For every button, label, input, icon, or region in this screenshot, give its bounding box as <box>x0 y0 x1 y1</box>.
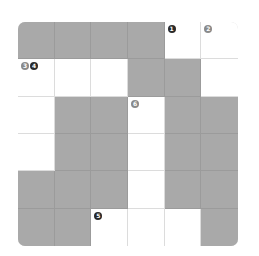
grid-cell-block <box>201 97 238 134</box>
grid-cell-block <box>55 97 92 134</box>
grid-cell-open[interactable]: 34 <box>18 59 55 96</box>
grid-cell-open[interactable] <box>128 171 165 208</box>
grid-cell-block <box>91 134 128 171</box>
grid-cell-open[interactable] <box>128 134 165 171</box>
grid-cell-block <box>18 22 55 59</box>
grid-cell-open[interactable] <box>91 59 128 96</box>
grid-cell-block <box>201 209 238 246</box>
clue-number-badge: 6 <box>131 100 139 108</box>
grid-cell-block <box>55 134 92 171</box>
clue-number-badge: 5 <box>94 212 102 220</box>
grid-cell-open[interactable] <box>201 59 238 96</box>
grid-cell-open[interactable] <box>18 97 55 134</box>
grid-cell-block <box>165 171 202 208</box>
grid-cell-block <box>55 171 92 208</box>
crossword-grid: 123465 <box>18 22 238 246</box>
grid-cell-block <box>165 134 202 171</box>
grid-cell-open[interactable] <box>165 209 202 246</box>
grid-cell-block <box>18 209 55 246</box>
grid-cell-block <box>128 59 165 96</box>
grid-cell-block <box>165 59 202 96</box>
grid-cell-block <box>201 134 238 171</box>
grid-cell-block <box>128 22 165 59</box>
grid-cell-open[interactable]: 6 <box>128 97 165 134</box>
grid-cell-open[interactable]: 5 <box>91 209 128 246</box>
grid-cell-block <box>55 22 92 59</box>
grid-cell-open[interactable] <box>55 59 92 96</box>
grid-cell-block <box>201 171 238 208</box>
grid-cell-block <box>55 209 92 246</box>
grid-cell-open[interactable]: 1 <box>165 22 202 59</box>
grid-cell-block <box>165 97 202 134</box>
grid-cell-block <box>91 97 128 134</box>
grid-cell-block <box>91 171 128 208</box>
grid-cell-block <box>18 171 55 208</box>
clue-number-badge: 4 <box>30 62 38 70</box>
clue-number-badge: 1 <box>168 25 176 33</box>
grid-cell-open[interactable] <box>128 209 165 246</box>
grid-cell-block <box>91 22 128 59</box>
clue-number-badge: 2 <box>204 25 212 33</box>
grid-cell-open[interactable]: 2 <box>201 22 238 59</box>
grid-cell-open[interactable] <box>18 134 55 171</box>
clue-number-badge: 3 <box>21 62 29 70</box>
